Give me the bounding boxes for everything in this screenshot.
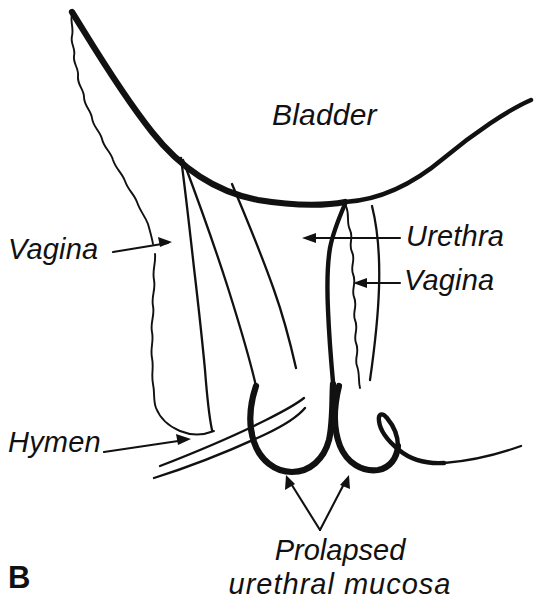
leader-vagina-right: [353, 278, 400, 288]
urethra-left-border: [327, 204, 345, 382]
urethra-right-wavy-border: [346, 206, 360, 388]
caption-line-2: urethral mucosa: [150, 567, 530, 601]
figure-panel-b: Bladder Urethra Vagina Vagina Hymen Prol…: [0, 0, 537, 605]
label-vagina-right: Vagina: [404, 266, 494, 295]
leader-vagina-left: [113, 237, 172, 252]
caption-line-1: Prolapsed: [150, 533, 530, 567]
label-hymen: Hymen: [8, 428, 101, 457]
label-bladder: Bladder: [272, 100, 377, 130]
anterior-wall-line-b: [232, 184, 296, 368]
caption-prolapsed-urethral-mucosa: Prolapsed urethral mucosa: [150, 533, 530, 601]
leader-prolapsed-mucosa-right: [320, 475, 350, 530]
leader-hymen: [104, 434, 191, 452]
label-vagina-left: Vagina: [8, 235, 98, 264]
mucosa-fold-hook: [379, 414, 444, 463]
anatomical-line-drawing: [0, 0, 537, 605]
label-urethra: Urethra: [406, 222, 504, 251]
leader-prolapsed-mucosa-left: [285, 475, 320, 530]
perineal-line-right: [444, 446, 521, 463]
panel-letter: B: [8, 562, 30, 593]
prolapsed-mucosa-left-lobe: [250, 384, 333, 472]
vaginal-wall-right-outer: [370, 206, 379, 380]
vaginal-rugae-left: [71, 14, 153, 244]
vaginal-rugae-left-lower: [151, 254, 214, 434]
prolapsed-mucosa-right-lobe: [335, 386, 398, 470]
